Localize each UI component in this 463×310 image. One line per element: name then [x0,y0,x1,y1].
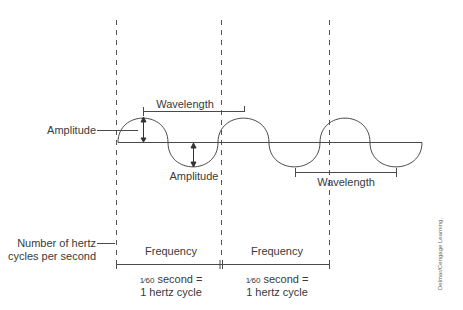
fraction-1: 1⁄60 [140,276,155,285]
frequency-label-2: Frequency [242,245,312,258]
amplitude-label-left: Amplitude [20,124,96,137]
period-label-2: 1⁄60 second = [232,273,322,287]
hertz-label-line1: Number of hertz [4,237,96,250]
wavelength-label-bottom: Wavelength [310,176,382,189]
wavelength-label-top: Wavelength [150,98,220,111]
credit-container: Delmar/Cengage Learning. [435,190,445,290]
cycle-label-1: 1 hertz cycle [126,286,216,299]
sine-wave-diagram [0,0,463,310]
second-label-2: second = [263,273,308,285]
fraction-2: 1⁄60 [246,276,261,285]
amplitude-arrow-crest [141,117,146,142]
period-label-1: 1⁄60 second = [126,273,216,287]
second-label-1: second = [157,273,202,285]
amplitude-label-bottom: Amplitude [168,170,220,183]
credit-text: Delmar/Cengage Learning. [437,218,443,290]
hertz-label-line2: cycles per second [4,250,96,263]
amplitude-arrow-trough [191,143,196,167]
frequency-bracket [116,260,330,269]
dashed-divider-lines [117,20,330,258]
cycle-label-2: 1 hertz cycle [232,286,322,299]
frequency-label-1: Frequency [136,245,206,258]
